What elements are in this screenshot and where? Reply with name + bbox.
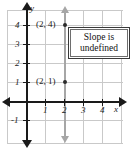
x-axis-arrow-right-icon [119, 97, 127, 107]
data-point-2-4 [63, 23, 67, 27]
data-point-2-1 [63, 80, 67, 84]
y-axis [26, 8, 28, 146]
y-axis-tick-label-4: 4 [15, 21, 20, 30]
y-axis-tick-label-neg1: -1 [11, 116, 19, 125]
slope-undefined-callout: Slope is undefined [68, 27, 130, 59]
y-tick-3 [23, 44, 30, 45]
y-axis-tick-label-2: 2 [15, 59, 20, 68]
y-tick-neg1 [23, 120, 30, 121]
graph-figure: 4 3 2 1 -1 1 2 3 4 y x (2, 4) (2, 1) Slo… [0, 0, 133, 156]
x-axis-tick-label-3: 3 [81, 106, 86, 115]
y-axis-arrow-down-icon [22, 140, 32, 148]
plotted-line-x-equals-2 [64, 12, 66, 138]
callout-line-1: Slope is [84, 32, 114, 43]
y-axis-tick-label-3: 3 [15, 40, 20, 49]
x-axis-label: x [114, 105, 118, 114]
y-tick-4 [23, 25, 30, 26]
data-point-label-2-4: (2, 4) [36, 20, 56, 29]
y-tick-2 [23, 63, 30, 64]
x-axis-tick-label-2: 2 [62, 106, 67, 115]
y-axis-label: y [30, 4, 34, 13]
callout-line-2: undefined [80, 43, 118, 54]
data-point-label-2-1: (2, 1) [36, 77, 56, 86]
x-axis-arrow-left-icon [2, 97, 10, 107]
y-axis-tick-label-1: 1 [15, 78, 20, 87]
grid-line-vertical [7, 10, 8, 144]
plotted-line-arrow-down-icon [61, 136, 69, 143]
x-axis-tick-label-4: 4 [100, 106, 105, 115]
plotted-line-arrow-up-icon [61, 6, 69, 13]
y-tick-1 [23, 82, 30, 83]
x-axis-tick-label-1: 1 [43, 106, 48, 115]
